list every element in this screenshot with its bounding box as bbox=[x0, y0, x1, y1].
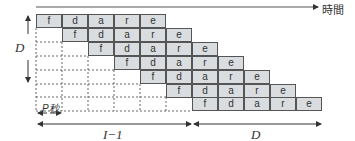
time-axis-label: 時間 bbox=[322, 1, 344, 17]
stage-cell-d: d bbox=[192, 84, 218, 98]
stage-cell-f: f bbox=[192, 97, 218, 111]
stage-cell-e: e bbox=[140, 14, 166, 28]
stage-cell-a: a bbox=[244, 97, 270, 111]
stage-cell-a: a bbox=[166, 56, 192, 70]
stage-cell-a: a bbox=[140, 42, 166, 56]
stage-cell-f: f bbox=[166, 84, 192, 98]
stage-cell-r: r bbox=[166, 42, 192, 56]
stage-cell-e: e bbox=[218, 56, 244, 70]
stage-cell-r: r bbox=[114, 14, 140, 28]
stage-cell-f: f bbox=[140, 70, 166, 84]
stage-cell-d: d bbox=[140, 56, 166, 70]
stage-cell-e: e bbox=[192, 42, 218, 56]
stage-cell-f: f bbox=[62, 28, 88, 42]
stage-cell-f: f bbox=[88, 42, 114, 56]
stage-cell-e: e bbox=[270, 84, 296, 98]
stage-cell-a: a bbox=[218, 84, 244, 98]
stage-cell-f: f bbox=[36, 14, 62, 28]
period-label: P秒 bbox=[42, 100, 59, 115]
stage-cell-a: a bbox=[88, 14, 114, 28]
stage-cell-d: d bbox=[114, 42, 140, 56]
stage-cell-r: r bbox=[270, 97, 296, 111]
stage-cell-d: d bbox=[88, 28, 114, 42]
stage-cell-r: r bbox=[244, 84, 270, 98]
stage-cell-a: a bbox=[192, 70, 218, 84]
stage-cell-f: f bbox=[114, 56, 140, 70]
stage-cell-d: d bbox=[218, 97, 244, 111]
vertical-d-label: D bbox=[15, 40, 24, 56]
stage-cell-e: e bbox=[166, 28, 192, 42]
i-minus-1-label: I−1 bbox=[103, 127, 123, 141]
stage-cell-e: e bbox=[244, 70, 270, 84]
stage-cell-e: e bbox=[296, 97, 322, 111]
stage-cell-d: d bbox=[62, 14, 88, 28]
stage-cell-a: a bbox=[114, 28, 140, 42]
stage-cell-r: r bbox=[218, 70, 244, 84]
stage-cell-r: r bbox=[140, 28, 166, 42]
pipeline-diagram: 時間 D P秒 I−1 D fdarefdarefdarefdarefdaref… bbox=[0, 0, 355, 141]
stage-cell-r: r bbox=[192, 56, 218, 70]
bottom-d-label: D bbox=[251, 127, 260, 141]
stage-cell-d: d bbox=[166, 70, 192, 84]
